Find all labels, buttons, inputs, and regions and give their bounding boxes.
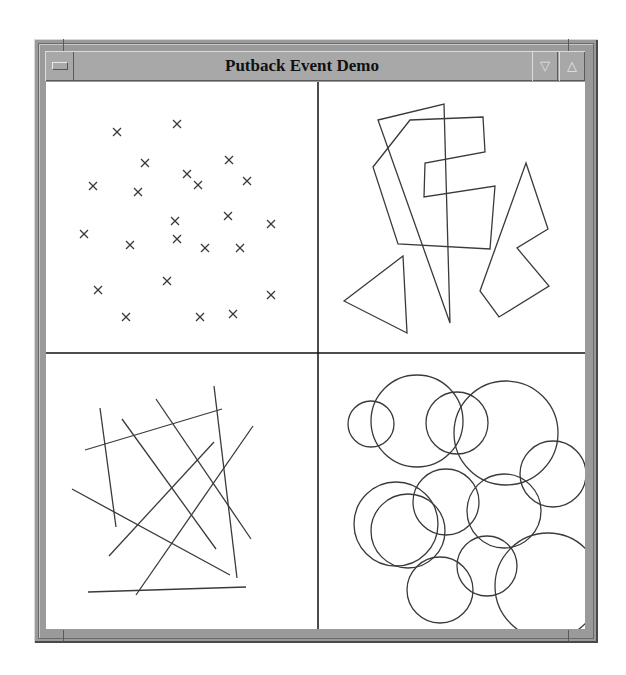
drawing-canvas[interactable] bbox=[0, 0, 626, 675]
canvas-background bbox=[46, 82, 585, 629]
